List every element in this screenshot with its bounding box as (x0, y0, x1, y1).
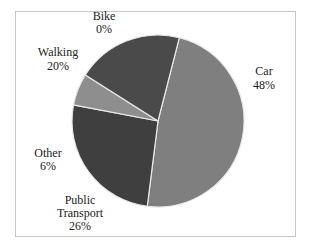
data-label-percent: 0% (96, 22, 112, 36)
data-label-name: Bike (93, 9, 116, 23)
data-label-name: Transport (57, 206, 104, 220)
data-label-percent: 6% (40, 159, 56, 173)
data-label-percent: 20% (47, 59, 69, 73)
data-label-name: Other (34, 146, 61, 160)
data-label-percent: 48% (253, 78, 275, 92)
data-label-public-transport: PublicTransport26% (57, 193, 104, 233)
data-label-name: Walking (38, 45, 78, 59)
data-label-other: Other6% (34, 146, 61, 173)
data-label-name: Public (65, 193, 96, 207)
pie-chart: Car48%PublicTransport26%Other6%Walking20… (0, 0, 310, 248)
data-label-percent: 26% (69, 219, 91, 233)
data-label-walking: Walking20% (38, 45, 78, 73)
data-label-name: Car (255, 64, 272, 78)
data-label-car: Car48% (253, 64, 275, 92)
pie-slice-public-transport (72, 105, 158, 206)
data-label-bike: Bike0% (93, 9, 116, 36)
